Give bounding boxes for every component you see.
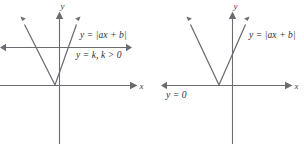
- left-y-axis: [56, 12, 63, 145]
- left-y-axis-arrowhead: [56, 12, 63, 20]
- left-curve-left-arrowhead: [21, 17, 26, 22]
- right-x-axis: [161, 82, 293, 90]
- left-curve-equation-label: y = |ax + b|: [79, 30, 127, 40]
- diagram-svg: y x y = |ax + b| y = k, k > 0: [0, 0, 304, 144]
- right-line-equation-label: y = 0: [165, 90, 187, 100]
- right-x-axis-label: x: [294, 81, 299, 91]
- left-level-line-right-arrowhead: [126, 44, 132, 52]
- right-curve-right-arrowhead: [244, 17, 249, 22]
- right-y-axis-label: y: [233, 1, 238, 11]
- right-x-axis-left-arrowhead: [161, 82, 167, 90]
- left-y-axis-label: y: [60, 1, 65, 11]
- right-curve-equation-label: y = |ax + b|: [248, 30, 296, 40]
- figure-container: y x y = |ax + b| y = k, k > 0: [0, 0, 304, 144]
- right-absolute-value-curve: [187, 17, 250, 86]
- left-absolute-value-curve: [21, 17, 81, 86]
- right-panel: y x y = |ax + b| y = 0: [161, 1, 299, 144]
- left-level-line-left-arrowhead: [0, 44, 6, 52]
- left-curve-right-arrowhead: [75, 17, 80, 22]
- right-x-axis-arrowhead: [285, 82, 293, 90]
- left-level-line-equation-label: y = k, k > 0: [75, 50, 122, 60]
- left-x-axis: [0, 82, 138, 90]
- right-curve-left-arrowhead: [187, 17, 192, 22]
- right-y-axis: [229, 12, 236, 145]
- left-x-axis-label: x: [139, 81, 144, 91]
- right-y-axis-arrowhead: [229, 12, 236, 20]
- left-panel: y x y = |ax + b| y = k, k > 0: [0, 1, 144, 144]
- left-x-axis-arrowhead: [130, 82, 138, 90]
